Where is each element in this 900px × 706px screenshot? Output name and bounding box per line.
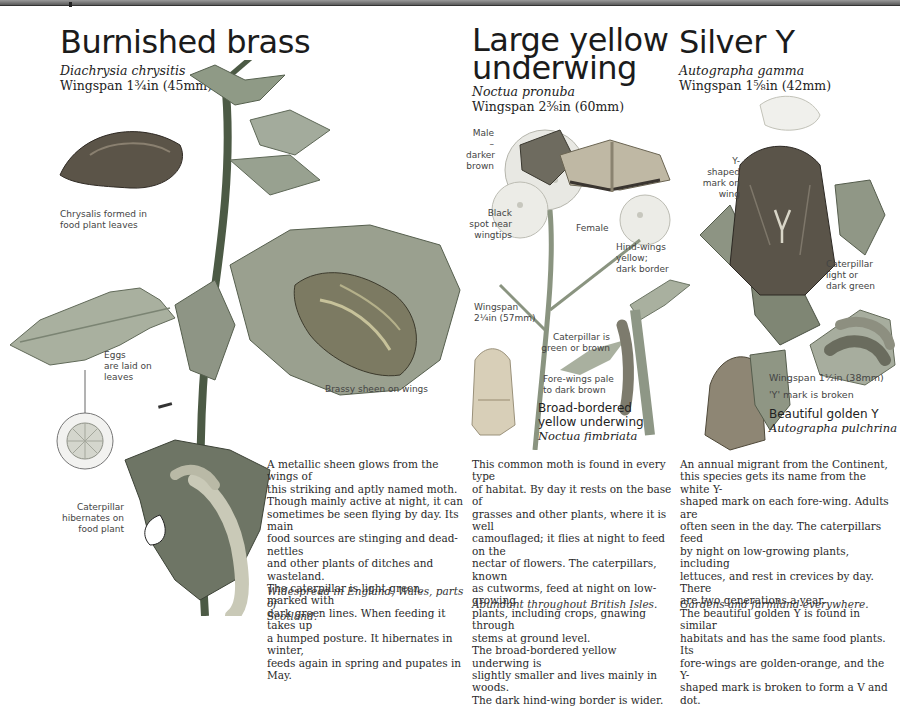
- label-caterpillar-hibernates: Caterpillar hibernates on food plant: [40, 502, 124, 535]
- text-line: of habitat. By day it rests on the base …: [472, 483, 677, 508]
- label-black-spot: Black spot near wingtips: [468, 208, 512, 241]
- label-chrysalis: Chrysalis formed in food plant leaves: [60, 209, 147, 231]
- text-line: shaped mark is broken to form a V and do…: [680, 681, 895, 706]
- label-line: Eggs: [104, 350, 152, 361]
- label-line: 2¼in (57mm): [474, 313, 536, 324]
- text-line: nectar of flowers. The caterpillars, kno…: [472, 557, 677, 582]
- text-line: fore-wings are golden-orange, and the Y-: [680, 657, 895, 682]
- label-line: darker: [466, 150, 494, 161]
- text-line: by night on low-growing plants, includin…: [680, 545, 895, 570]
- text-line: habitats and has the same food plants. I…: [680, 632, 895, 657]
- text-line: Though mainly active at night, it can: [267, 495, 467, 507]
- label-line: Male –: [466, 128, 494, 150]
- label-line: are laid on: [104, 361, 152, 372]
- text-line: An annual migrant from the Continent,: [680, 458, 895, 470]
- page-marker: [69, 2, 72, 7]
- text-line: food sources are stinging and dead-nettl…: [267, 532, 467, 557]
- title-burnished-brass: Burnished brass: [60, 26, 310, 58]
- text-line: shaped mark on each fore-wing. Adults ar…: [680, 495, 895, 520]
- label-line: dark green: [826, 281, 875, 292]
- label-line: leaves: [104, 372, 152, 383]
- label-brassy-sheen: Brassy sheen on wings: [325, 384, 428, 395]
- description-large-yellow-underwing: This common moth is found in every type …: [472, 458, 677, 706]
- label-wingspan-golden-y: Wingspan 1½in (38mm): [769, 372, 884, 383]
- text-line: The beautiful golden Y is found in simil…: [680, 607, 895, 632]
- text-line: The dark hind-wing border is wider.: [472, 694, 677, 706]
- label-male: Male – darker brown: [466, 128, 494, 172]
- page-top-rule: [0, 0, 900, 6]
- label-line: food plant leaves: [60, 220, 147, 231]
- text-line: feeds again in spring and pupates in May…: [267, 657, 467, 682]
- description-burnished-brass: A metallic sheen glows from the wings of…: [267, 458, 467, 681]
- label-line: mark on: [700, 178, 740, 189]
- text-line: sometimes be seen flying by day. Its mai…: [267, 508, 467, 533]
- related-broad-bordered-yellow-underwing: Broad-bordered yellow underwing Noctua f…: [538, 401, 644, 443]
- text-line: This common moth is found in every type: [472, 458, 677, 483]
- label-line: yellow;: [616, 253, 669, 264]
- text-line: this striking and aptly named moth.: [267, 483, 467, 495]
- label-line: food plant: [40, 524, 124, 535]
- distribution-large-yellow-underwing: Abundant throughout British Isles.: [472, 598, 677, 610]
- label-line: Chrysalis formed in: [60, 209, 147, 220]
- text-line: grasses and other plants, where it is we…: [472, 508, 677, 533]
- text-line: slightly smaller and lives mainly in woo…: [472, 669, 677, 694]
- label-forewings-pale: Fore-wings pale to dark brown: [543, 374, 614, 396]
- label-line: Fore-wings pale: [543, 374, 614, 385]
- title-large-yellow-underwing: Large yellow underwing: [472, 26, 668, 82]
- label-line: wingtips: [468, 230, 512, 241]
- label-caterpillar-green-brown: Caterpillar is green or brown: [540, 332, 610, 354]
- label-line: Wingspan: [474, 302, 536, 313]
- label-line: Hind-wings: [616, 242, 669, 253]
- text-line: Scotland.: [267, 610, 467, 622]
- latin-large-yellow-underwing: Noctua pronuba: [472, 84, 575, 99]
- label-line: Caterpillar: [40, 502, 124, 513]
- label-line: light or: [826, 270, 875, 281]
- label-line: hibernates on: [40, 513, 124, 524]
- related-name-line: Broad-bordered: [538, 401, 644, 415]
- label-line: brown: [466, 161, 494, 172]
- label-line: wing: [700, 189, 740, 200]
- label-line: green or brown: [540, 343, 610, 354]
- description-silver-y: An annual migrant from the Continent, th…: [680, 458, 895, 706]
- title-silver-y: Silver Y: [679, 26, 795, 58]
- text-line: a humped posture. It hibernates in winte…: [267, 632, 467, 657]
- label-female: Female: [576, 223, 609, 234]
- label-eggs: Eggs are laid on leaves: [104, 350, 152, 383]
- text-line: camouflaged; it flies at night to feed o…: [472, 532, 677, 557]
- distribution-silver-y: Gardens and farmland everywhere.: [680, 598, 895, 610]
- label-caterpillar-light-dark-green: Caterpillar light or dark green: [826, 259, 875, 292]
- text-line: A metallic sheen glows from the wings of: [267, 458, 467, 483]
- related-name-line: Beautiful golden Y: [769, 407, 897, 421]
- illustration-large-yellow-underwing: [460, 110, 690, 450]
- text-line: lettuces, and rest in crevices by day. T…: [680, 570, 895, 595]
- label-line: Black: [468, 208, 512, 219]
- related-beautiful-golden-y: Beautiful golden Y Autographa pulchrina: [769, 407, 897, 435]
- label-line: spot near: [468, 219, 512, 230]
- text-line: Widespread in England, Wales, parts of: [267, 585, 467, 610]
- label-y-shaped-mark: Y-shaped mark on wing: [700, 156, 740, 200]
- related-latin-name: Noctua fimbriata: [538, 429, 644, 443]
- label-hindwings: Hind-wings yellow; dark border: [616, 242, 669, 275]
- text-line: and other plants of ditches and wastelan…: [267, 557, 467, 582]
- label-line: Caterpillar: [826, 259, 875, 270]
- text-line: this species gets its name from the whit…: [680, 470, 895, 495]
- text-line: stems at ground level.: [472, 632, 677, 644]
- distribution-burnished-brass: Widespread in England, Wales, parts of S…: [267, 585, 467, 622]
- text-line: The broad-bordered yellow underwing is: [472, 644, 677, 669]
- label-line: to dark brown: [543, 385, 614, 396]
- latin-silver-y: Autographa gamma: [679, 63, 804, 78]
- label-y-mark-broken: 'Y' mark is broken: [769, 389, 854, 400]
- text-line: often seen in the day. The caterpillars …: [680, 520, 895, 545]
- text-line: plants, including crops, gnawing through: [472, 607, 677, 632]
- label-wingspan-broad-bordered: Wingspan 2¼in (57mm): [474, 302, 536, 324]
- related-latin-name: Autographa pulchrina: [769, 421, 897, 435]
- label-line: dark border: [616, 264, 669, 275]
- label-line: Y-shaped: [700, 156, 740, 178]
- label-line: Caterpillar is: [540, 332, 610, 343]
- related-name-line: yellow underwing: [538, 415, 644, 429]
